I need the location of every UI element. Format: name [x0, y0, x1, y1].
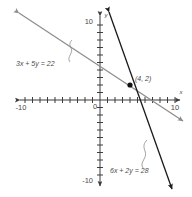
- line-1-equation-label: 3x + 5y = 22: [16, 60, 55, 68]
- x-axis-name-label: x: [179, 89, 184, 95]
- coordinate-graph-figure: -10 10 0 10 -10 x y 3x + 5y = 22 6x + 2y…: [0, 0, 192, 197]
- y-axis-max-tick-label: 10: [85, 17, 93, 26]
- line-2-equation-label: 6x + 2y = 28: [110, 167, 149, 175]
- y-axis-min-tick-label: -10: [82, 176, 93, 185]
- line-3x-5y-22: [19, 13, 183, 121]
- leader-line-2: [142, 140, 147, 168]
- intersection-point-label: (4, 2): [135, 75, 151, 83]
- y-axis: [97, 16, 103, 186]
- y-axis-name-label: y: [104, 12, 109, 18]
- x-axis-max-tick-label: 10: [171, 103, 179, 112]
- origin-label: 0: [93, 102, 97, 111]
- intersection-point-marker: [127, 82, 132, 87]
- leader-line-1: [69, 40, 72, 62]
- x-axis-min-tick-label: -10: [16, 103, 27, 112]
